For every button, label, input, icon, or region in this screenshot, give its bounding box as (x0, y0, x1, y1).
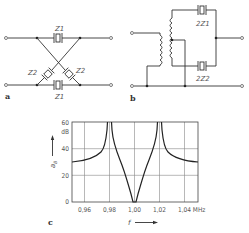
terminal-out-top (241, 37, 244, 40)
svg-text:aB: aB (49, 161, 58, 168)
x-tick-102: 1,02 (153, 206, 166, 214)
crystal-icon (54, 80, 62, 90)
circuit-b: 2Z1 2Z2 b (130, 5, 244, 103)
x-tick-098: 0,98 (103, 206, 116, 214)
label-2z2: 2Z2 (196, 75, 210, 83)
label-z2-right: Z2 (75, 67, 86, 75)
y-tick-0: 0 (65, 198, 69, 206)
panel-label-a: a (5, 91, 10, 101)
inductor-secondary-icon (170, 10, 198, 66)
arrow-right-icon (153, 221, 158, 224)
terminal-in-top (131, 32, 134, 35)
chart-c: 60 dB 40 20 0 aB 0,96 0,98 1,00 1,02 1,0… (48, 119, 205, 227)
terminal-in-bottom (131, 85, 134, 88)
label-z1-bottom: Z1 (54, 93, 64, 101)
panel-label-b: b (130, 93, 136, 103)
terminal-out-bottom (110, 84, 113, 87)
y-axis-label: aB (49, 135, 58, 168)
svg-text:f: f (128, 219, 132, 227)
panel-label-c: c (48, 217, 53, 227)
y-tick-20: 20 (62, 172, 70, 180)
y-unit-db: dB (61, 128, 69, 136)
y-tick-40: 40 (62, 145, 70, 153)
x-axis-label: f (128, 219, 158, 227)
x-tick-096: 0,96 (78, 206, 91, 214)
arrow-up-icon (51, 135, 54, 140)
crystal-icon (198, 5, 206, 15)
grid (72, 122, 198, 202)
terminal-out-top (110, 37, 113, 40)
label-z2-left: Z2 (27, 69, 38, 77)
figure-canvas: Z1 Z1 Z2 Z2 a (0, 0, 249, 233)
crystal-icon (54, 33, 62, 43)
plot-frame (72, 122, 198, 202)
terminal-out-bottom (241, 85, 244, 88)
x-tick-100: 1,00 (128, 206, 141, 214)
inductor-primary-icon (147, 33, 162, 86)
circuit-a: Z1 Z1 Z2 Z2 a (5, 25, 113, 101)
terminal-in-top (5, 37, 8, 40)
x-tick-104: 1,04 MHz (178, 206, 205, 214)
attenuation-curve (72, 122, 198, 202)
label-z1-top: Z1 (54, 25, 64, 33)
crystal-icon (198, 61, 206, 71)
terminal-in-bottom (5, 84, 8, 87)
label-2z1: 2Z1 (196, 20, 210, 28)
y-tick-60: 60 (62, 119, 70, 127)
